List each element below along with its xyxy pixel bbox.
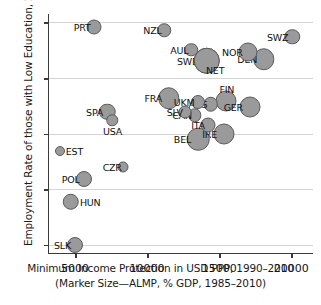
data-point-label-usa: USA (103, 126, 122, 137)
data-point-label-net: NET (206, 64, 224, 75)
x-axis-tick (219, 253, 221, 258)
data-point-label-ger: GER (224, 102, 243, 113)
y-axis-title: Employment Rate of those with Low Educat… (22, 6, 34, 246)
y-axis-tick (44, 245, 49, 247)
data-point-hun (62, 194, 79, 211)
data-point-label-fra: FRA (144, 93, 162, 104)
data-point-label-aul: AUL (170, 44, 188, 55)
gridline-y (49, 189, 313, 190)
data-point-label-nor: NOR (222, 47, 243, 58)
data-point-usa (107, 114, 119, 126)
scatter-chart: Employment Rate of those with Low Educat… (0, 0, 321, 305)
data-point-label-pol: POL (62, 174, 80, 185)
data-point-label-slk: SLK (54, 240, 71, 251)
data-point-label-fin: FIN (219, 84, 234, 95)
x-axis-tick (147, 253, 149, 258)
data-point-label-est: EST (66, 146, 83, 157)
data-point-label-spa: SPA (86, 106, 103, 117)
y-axis-tick (44, 22, 49, 24)
data-point-label-prt: PRT (74, 21, 91, 32)
data-point-est (55, 146, 65, 156)
x-axis-title-line2: (Marker Size—ALMP, % GDP, 1985–2010) (0, 277, 321, 289)
y-axis-tick (44, 189, 49, 191)
data-point-label-nzl: NZL (143, 25, 161, 36)
data-point-label-czr: CZR (103, 162, 122, 173)
x-axis-tick (75, 253, 77, 258)
gridline-y (49, 245, 313, 246)
data-point-label-swz: SWZ (267, 31, 288, 42)
data-point-label-slv: SLV (167, 107, 183, 118)
x-axis-tick (291, 253, 293, 258)
y-axis-tick (44, 134, 49, 136)
gridline-y (49, 78, 313, 79)
plot-area: 30405060705000100001500020000SWENETBELDE… (48, 14, 313, 254)
data-point-label-bel: BEL (174, 134, 191, 145)
y-axis-tick (44, 78, 49, 80)
x-axis-title-line1: Minimum Income Protection in USD PPP, 19… (0, 262, 321, 274)
data-point-label-hun: HUN (80, 196, 101, 207)
